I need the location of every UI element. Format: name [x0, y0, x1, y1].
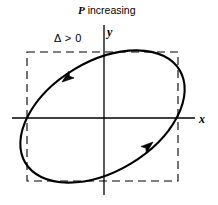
figure-title: P increasing — [78, 5, 136, 16]
title-text: increasing — [85, 4, 136, 16]
dashed-bounding-box — [27, 52, 178, 181]
x-axis-label: x — [199, 113, 205, 125]
discriminant-annotation: Δ > 0 — [54, 33, 82, 44]
title-symbol: P — [78, 4, 85, 16]
y-axis-label: y — [107, 26, 112, 38]
phase-portrait-figure: P increasing y x Δ > 0 — [0, 0, 218, 205]
